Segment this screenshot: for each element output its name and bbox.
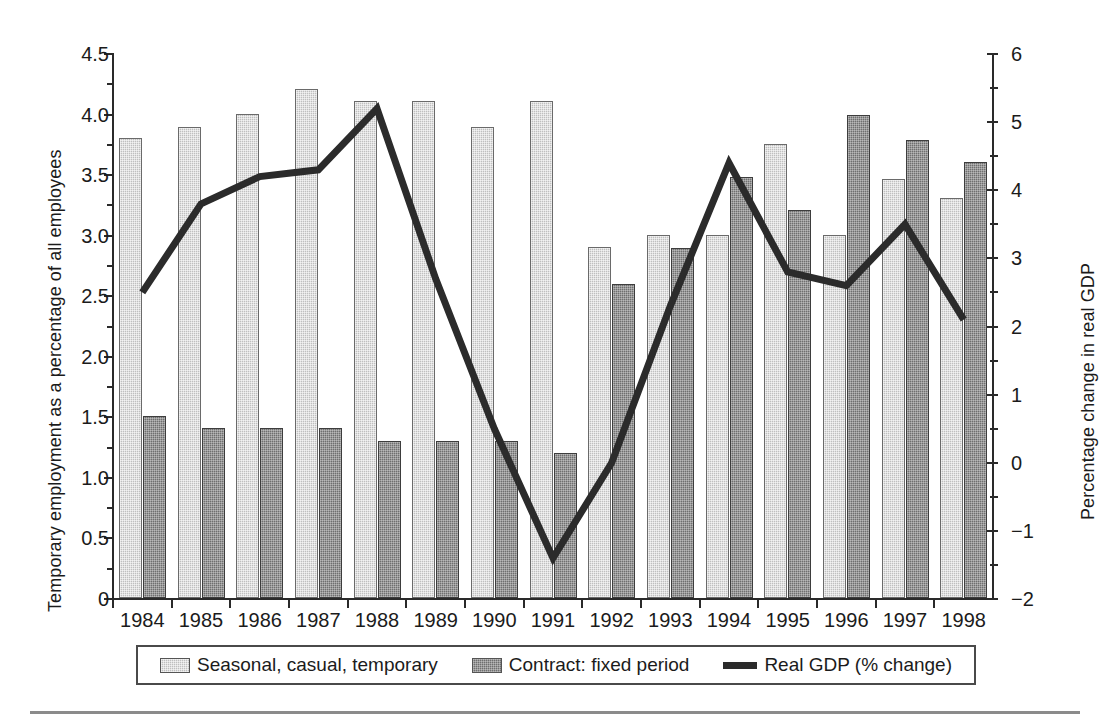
x-tick [171,599,173,608]
chart-figure: Temporary employment as a percentage of … [0,0,1109,727]
x-tick [405,599,407,608]
x-tick-label: 1992 [582,610,642,630]
footer-rule [30,711,1080,714]
y-tick-label-right: 6 [1011,44,1022,64]
y-tick-label-left: 0.5 [81,528,109,548]
x-tick-label: 1987 [288,610,348,630]
y-tick-label-left: 1.0 [81,468,109,488]
x-tick [699,599,701,608]
x-tick [875,599,877,608]
x-tick [229,599,231,608]
y-tick-label-right: 3 [1011,248,1022,268]
light-hatch-swatch [160,658,190,673]
dark-hatch-swatch [472,658,502,673]
x-tick-label: 1996 [816,610,876,630]
x-tick-label: 1995 [758,610,818,630]
y-tick-label-left: 3.0 [81,226,109,246]
x-tick-label: 1986 [230,610,290,630]
chart-legend: Seasonal, casual, temporaryContract: fix… [136,645,976,685]
y-tick-label-left: 1.5 [81,407,109,427]
x-tick-label: 1985 [171,610,231,630]
x-tick [933,599,935,608]
line-swatch [723,662,757,669]
y-tick-label-right: −1 [1011,521,1034,541]
x-tick [347,599,349,608]
x-tick [523,599,525,608]
y-axis-left-title: Temporary employment as a percentage of … [45,149,66,612]
legend-item[interactable]: Real GDP (% change) [723,654,952,676]
x-tick-label: 1991 [523,610,583,630]
plot-area: 00.51.01.52.02.53.03.54.04.5 −2−10123456… [113,54,993,598]
legend-item[interactable]: Seasonal, casual, temporary [160,654,438,676]
x-tick [816,599,818,608]
x-tick [581,599,583,608]
x-tick-label: 1990 [464,610,524,630]
x-tick-label: 1997 [875,610,935,630]
legend-item-label: Seasonal, casual, temporary [197,654,438,676]
x-tick-label: 1988 [347,610,407,630]
gdp-line-series [113,54,993,599]
y-tick-label-left: 0 [98,589,109,609]
legend-item-label: Contract: fixed period [509,654,690,676]
x-tick-label: 1989 [406,610,466,630]
legend-item[interactable]: Contract: fixed period [472,654,690,676]
y-tick-label-right: 0 [1011,453,1022,473]
x-tick [464,599,466,608]
y-tick-label-right: 5 [1011,112,1022,132]
x-tick-label: 1984 [112,610,172,630]
x-tick [288,599,290,608]
y-tick-label-right: 2 [1011,317,1022,337]
gdp-line-path [142,109,963,559]
x-tick [640,599,642,608]
y-tick-label-right: 4 [1011,180,1022,200]
y-tick-label-left: 3.5 [81,165,109,185]
y-axis-right-title: Percentage change in real GDP [1078,263,1099,520]
y-tick-label-left: 4.5 [81,44,109,64]
x-tick-label: 1998 [934,610,994,630]
y-tick-label-right: −2 [1011,589,1034,609]
y-tick-label-left: 2.0 [81,347,109,367]
x-tick-label: 1993 [640,610,700,630]
y-tick-label-left: 4.0 [81,105,109,125]
x-tick [757,599,759,608]
y-tick-label-left: 2.5 [81,286,109,306]
x-tick-label: 1994 [699,610,759,630]
legend-item-label: Real GDP (% change) [764,654,952,676]
y-tick-label-right: 1 [1011,385,1022,405]
x-tick [112,599,114,608]
